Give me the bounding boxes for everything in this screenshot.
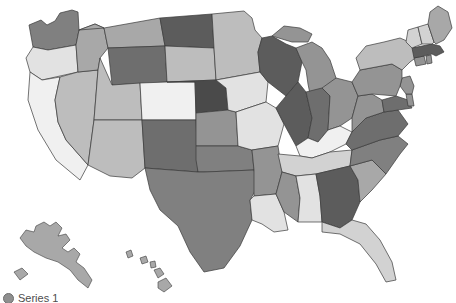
state-new-mexico[interactable]: [142, 120, 198, 172]
state-north-dakota[interactable]: [160, 14, 214, 48]
us-choropleth-map-figure: Series 1: [0, 0, 456, 303]
state-south-dakota[interactable]: [165, 46, 216, 82]
state-rhode-island[interactable]: [426, 55, 432, 64]
state-oklahoma[interactable]: [196, 146, 254, 172]
state-washington[interactable]: [29, 10, 79, 50]
state-alaska[interactable]: [14, 222, 92, 288]
legend-series-dot-icon: [3, 293, 14, 303]
legend-series-label: Series 1: [18, 293, 58, 303]
state-georgia[interactable]: [316, 166, 360, 228]
state-hawaii[interactable]: [126, 250, 172, 292]
state-florida[interactable]: [322, 220, 396, 282]
state-wyoming[interactable]: [108, 46, 167, 85]
chart-legend: Series 1: [3, 293, 58, 303]
state-kansas[interactable]: [196, 110, 238, 146]
state-minnesota[interactable]: [212, 11, 262, 80]
state-colorado[interactable]: [140, 82, 196, 120]
state-arizona[interactable]: [88, 120, 145, 178]
us-map-svg: [0, 0, 456, 303]
state-texas[interactable]: [145, 168, 258, 272]
